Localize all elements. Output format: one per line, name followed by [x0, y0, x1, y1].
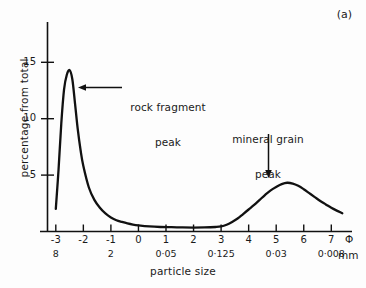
mm-tick-label: 0·05: [143, 249, 189, 260]
x-tick-label: 2: [181, 234, 207, 245]
mm-tick-label: 0·03: [253, 249, 299, 260]
mm-tick-label: 2: [88, 249, 134, 260]
mineral-grain-peak-annotation: mineral grain peak: [218, 110, 318, 204]
mm-tick-label: 0·125: [198, 249, 244, 260]
x-tick-label: -2: [70, 234, 96, 245]
panel-label: (a): [337, 9, 352, 21]
annotation-line-1: mineral grain: [218, 134, 318, 146]
y-tick-label: 10: [14, 112, 36, 123]
y-tick-label: 15: [14, 56, 36, 67]
x-tick-label: 6: [291, 234, 317, 245]
annotation-line-2: peak: [120, 137, 216, 149]
y-tick-label: 5: [14, 169, 36, 180]
rock-fragment-arrow: [78, 84, 122, 91]
x-axis-title: particle size: [0, 266, 366, 278]
x-tick-label: 7: [318, 234, 344, 245]
x-tick-label: -3: [43, 234, 69, 245]
mm-unit-label: mm: [338, 250, 358, 262]
x-tick-label: 5: [263, 234, 289, 245]
annotation-line-2: peak: [218, 169, 318, 181]
x-tick-label: 3: [208, 234, 234, 245]
figure-panel: (a) percentage from total particle size …: [0, 0, 366, 288]
phi-unit-label: Φ: [345, 234, 353, 246]
x-tick-label: 4: [236, 234, 262, 245]
x-tick-label: 1: [153, 234, 179, 245]
x-tick-label: -1: [98, 234, 124, 245]
mm-tick-label: 8: [33, 249, 79, 260]
annotation-line-1: rock fragment: [120, 102, 216, 114]
x-tick-label: 0: [125, 234, 151, 245]
rock-fragment-peak-annotation: rock fragment peak: [120, 78, 216, 172]
